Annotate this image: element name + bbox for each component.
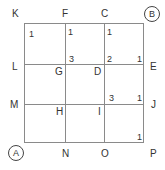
point-label-f: F [62, 9, 68, 19]
cell-number: 1 [29, 30, 34, 39]
cell-number: 1 [137, 94, 142, 103]
point-label-h: H [56, 107, 63, 117]
grid-line-vertical-1 [65, 24, 66, 142]
point-label-e: E [150, 62, 157, 72]
grid-line-vertical-2 [104, 24, 105, 142]
cell-number: 1 [68, 28, 73, 37]
point-label-i: I [98, 107, 101, 117]
grid-line-horizontal-1 [25, 64, 143, 65]
cell-number: 3 [69, 55, 74, 64]
cell-number: 2 [107, 55, 112, 64]
point-label-b-circled: B [144, 6, 160, 22]
point-label-d: D [94, 67, 101, 77]
point-label-m: M [10, 100, 18, 110]
point-label-n: N [62, 149, 69, 159]
grid-line-horizontal-2 [25, 104, 143, 105]
cell-number: 1 [137, 55, 142, 64]
point-label-g: G [55, 67, 63, 77]
point-label-l: L [12, 62, 18, 72]
cell-number: 1 [137, 133, 142, 142]
cell-number: 3 [109, 94, 114, 103]
cell-number: 1 [107, 28, 112, 37]
point-label-a-circled: A [8, 145, 24, 161]
point-label-c: C [101, 9, 108, 19]
grid-frame [24, 23, 144, 143]
point-label-p: P [150, 149, 157, 159]
point-label-k: K [12, 9, 19, 19]
point-label-o: O [101, 149, 109, 159]
point-label-j: J [151, 100, 156, 110]
